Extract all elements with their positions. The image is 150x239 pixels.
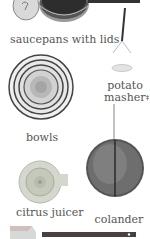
saucepans-label: saucepans with lids [10, 34, 102, 46]
spatula-image [10, 225, 136, 239]
citrus-juicer-label: citrus juicer [16, 207, 76, 219]
potato-masher-label: potato masher‡ [104, 80, 146, 104]
potato-masher-label-line2: masher [104, 91, 146, 104]
bowls-label: bowls [24, 132, 60, 144]
potato-masher-mark: ‡ [146, 93, 150, 102]
potato-masher-image [108, 8, 138, 72]
bowls-image [6, 54, 76, 120]
citrus-juicer-image [18, 160, 70, 204]
colander-image [86, 104, 146, 200]
